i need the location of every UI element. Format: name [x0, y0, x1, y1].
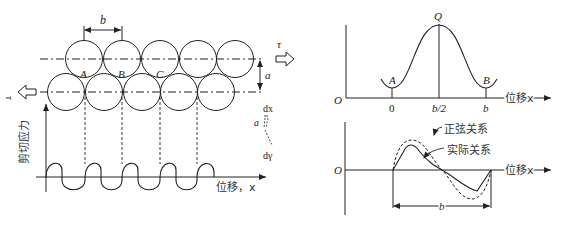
- shear-arrow-left: [18, 85, 36, 99]
- spacing-dimension: [84, 26, 122, 40]
- stress-x-label: 位移，x: [216, 180, 256, 194]
- min-right-label: B: [483, 74, 490, 86]
- layer-gap-label: a: [265, 69, 271, 81]
- legend-actual-label: 实际关系: [447, 143, 491, 157]
- site-label-a: A: [79, 68, 87, 80]
- site-label-b: B: [118, 68, 125, 80]
- inset-a-label: a: [254, 117, 259, 128]
- dgamma-label: dγ: [263, 150, 273, 161]
- shear-stress-curve: [46, 163, 214, 190]
- energy-x-label: 位移x: [505, 91, 534, 105]
- period-label: b: [439, 200, 445, 212]
- legend-sine-label: 正弦关系: [444, 122, 488, 136]
- strain-inset: [264, 116, 272, 145]
- diagram-canvas: b a A B C τ τ 剪切应力 位移，x dx a dγ: [0, 0, 561, 225]
- xtick-mid-label: b/2: [432, 102, 447, 114]
- figure-stage: b a A B C τ τ 剪切应力 位移，x dx a dγ: [0, 0, 561, 225]
- force-origin-label: O: [334, 164, 342, 176]
- stress-y-label: 剪切应力: [17, 120, 31, 164]
- energy-plot-axes: [346, 24, 551, 98]
- dx-label: dx: [263, 103, 273, 114]
- site-label-c: C: [156, 68, 164, 80]
- tau-bottom-label: τ: [4, 96, 16, 101]
- xtick-0-label: 0: [389, 102, 395, 114]
- site-guidelines: [85, 97, 197, 164]
- tau-top-label: τ: [277, 38, 282, 50]
- energy-origin-label: O: [334, 94, 342, 106]
- atomic-lattice: [40, 41, 262, 111]
- force-x-label: 位移x: [505, 163, 534, 177]
- xtick-end-label: b: [483, 102, 489, 114]
- stress-plot-axes: [36, 104, 266, 192]
- legend-pointers: [424, 127, 444, 158]
- shear-arrow-right: [276, 52, 294, 66]
- min-left-label: A: [388, 74, 396, 86]
- peak-label: Q: [434, 10, 442, 22]
- spacing-label: b: [100, 13, 106, 27]
